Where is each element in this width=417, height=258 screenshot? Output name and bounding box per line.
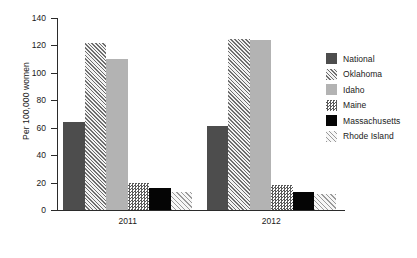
legend-label: Oklahoma xyxy=(343,69,382,79)
y-tick-label: 0 xyxy=(6,205,46,215)
legend-swatch-oklahoma xyxy=(326,69,337,80)
legend-label: Idaho xyxy=(343,85,365,95)
bar-massachusetts-2011 xyxy=(149,188,171,210)
y-tick-label: 120 xyxy=(6,40,46,50)
y-tick-label: 140 xyxy=(6,13,46,23)
x-tick-label-2011: 2011 xyxy=(98,216,158,226)
legend-item-massachusetts[interactable]: Massachusetts xyxy=(326,113,400,129)
legend-item-rhodeisland[interactable]: Rhode Island xyxy=(326,129,400,145)
bar-idaho-2012 xyxy=(250,40,272,210)
x-tick-label-2012: 2012 xyxy=(241,216,301,226)
legend-item-maine[interactable]: Maine xyxy=(326,98,400,114)
bar-maine-2012 xyxy=(271,185,293,210)
bar-rhodeisland-2012 xyxy=(314,194,336,210)
legend-item-idaho[interactable]: Idaho xyxy=(326,82,400,98)
legend: NationalOklahomaIdahoMaineMassachusettsR… xyxy=(326,51,400,144)
y-tick-mark xyxy=(51,183,57,184)
bar-maine-2011 xyxy=(128,183,150,210)
bar-chart: Per 100,000 women 020406080100120140 201… xyxy=(0,0,417,258)
y-tick-mark xyxy=(51,155,57,156)
y-tick-label: 60 xyxy=(6,123,46,133)
y-tick-mark xyxy=(51,100,57,101)
legend-label: Rhode Island xyxy=(343,131,394,141)
y-tick-mark xyxy=(51,128,57,129)
y-tick-mark xyxy=(51,210,57,211)
legend-swatch-rhodeisland xyxy=(326,131,337,142)
y-tick-mark xyxy=(51,45,57,46)
legend-swatch-maine xyxy=(326,100,337,111)
bar-idaho-2011 xyxy=(106,59,128,210)
legend-swatch-idaho xyxy=(326,84,337,95)
y-tick-mark xyxy=(51,73,57,74)
bar-national-2012 xyxy=(207,126,229,210)
x-axis-line xyxy=(57,210,345,211)
y-tick-label: 100 xyxy=(6,68,46,78)
y-tick-label: 40 xyxy=(6,150,46,160)
y-axis-line xyxy=(57,18,58,211)
bar-oklahoma-2011 xyxy=(85,43,107,210)
legend-swatch-massachusetts xyxy=(326,115,337,126)
legend-item-oklahoma[interactable]: Oklahoma xyxy=(326,67,400,83)
y-tick-mark xyxy=(51,18,57,19)
legend-label: National xyxy=(343,54,375,64)
legend-label: Massachusetts xyxy=(343,116,400,126)
y-tick-label: 80 xyxy=(6,95,46,105)
bar-oklahoma-2012 xyxy=(228,39,250,210)
bar-national-2011 xyxy=(63,122,85,210)
legend-label: Maine xyxy=(343,100,366,110)
bar-massachusetts-2012 xyxy=(293,192,315,210)
bar-rhodeisland-2011 xyxy=(171,192,193,210)
legend-swatch-national xyxy=(326,53,337,64)
legend-item-national[interactable]: National xyxy=(326,51,400,67)
y-tick-label: 20 xyxy=(6,178,46,188)
